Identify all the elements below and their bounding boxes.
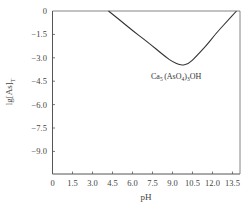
x-tick-label: 0 <box>50 178 54 188</box>
y-ticks: 0−1.5−3.0−4.5−6.0−7.5−9.0 <box>32 6 55 156</box>
y-axis-title: lg[As]T <box>4 78 16 105</box>
y-tick-label: −4.5 <box>32 76 47 86</box>
x-tick-label: 9.0 <box>167 178 178 188</box>
y-tick-label: −6.0 <box>32 100 47 110</box>
x-tick-label: 6.0 <box>127 178 138 188</box>
y-tick-label: 0 <box>43 6 47 16</box>
y-tick-label: −7.5 <box>32 123 47 133</box>
chart: 01.53.04.56.07.59.010.512.013.5 0−1.5−3.… <box>0 0 252 210</box>
y-axis-title-main: lg[As] <box>4 82 14 105</box>
y-tick-label: −3.0 <box>32 53 47 63</box>
annot-sub-5: 5 <box>160 76 163 82</box>
x-tick-label: 13.5 <box>225 178 240 188</box>
x-tick-label: 10.5 <box>185 178 200 188</box>
x-tick-label: 12.0 <box>205 178 220 188</box>
annot-mid: (AsO <box>164 72 182 81</box>
x-tick-label: 7.5 <box>147 178 158 188</box>
x-tick-label: 4.5 <box>107 178 118 188</box>
plot-frame <box>53 11 241 174</box>
y-tick-label: −1.5 <box>32 29 47 39</box>
y-axis-title-sub: T <box>10 78 16 82</box>
annot-tail: OH <box>190 72 202 81</box>
x-tick-label: 1.5 <box>67 178 78 188</box>
curve-annotation: Ca5(AsO4)3OH <box>151 72 201 82</box>
x-axis-title: pH <box>141 192 153 202</box>
y-tick-label: −9.0 <box>32 146 47 156</box>
series-line-ca5aso43oh <box>109 11 237 65</box>
svg-text:lg[As]T: lg[As]T <box>4 78 16 105</box>
x-tick-label: 3.0 <box>87 178 98 188</box>
